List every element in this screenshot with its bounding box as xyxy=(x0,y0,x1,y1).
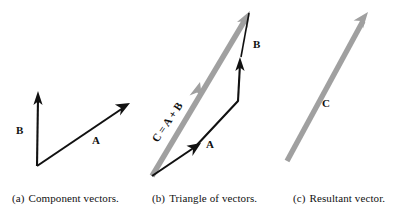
caption-tag-b: (b) xyxy=(152,192,165,204)
caption-panel-a: (a)Component vectors. xyxy=(12,192,119,204)
caption-panel-b: (b)Triangle of vectors. xyxy=(152,192,257,204)
caption-text-c: Resultant vector. xyxy=(310,192,386,204)
vector-figure: B A C = A + B A B C (a)Component vectors… xyxy=(0,0,403,212)
caption-tag-c: (c) xyxy=(293,192,306,204)
vector-diagram xyxy=(0,0,403,212)
vector-b-C xyxy=(152,11,250,176)
vector-label-a-A: A xyxy=(92,134,100,146)
vector-label-b-B: B xyxy=(253,38,260,50)
vector-a-A xyxy=(37,103,130,166)
vector-label-a-B: B xyxy=(16,124,23,136)
panel-c-graphics xyxy=(287,12,368,161)
caption-tag-a: (a) xyxy=(12,192,25,204)
caption-panel-c: (c)Resultant vector. xyxy=(293,192,385,204)
panel-a-graphics xyxy=(33,91,130,166)
vector-label-b-A: A xyxy=(206,138,214,150)
vector-c-C xyxy=(287,12,368,161)
caption-text-a: Component vectors. xyxy=(29,192,119,204)
panel-b-graphics xyxy=(152,11,250,176)
caption-row: (a)Component vectors. (b)Triangle of vec… xyxy=(0,192,403,212)
caption-text-b: Triangle of vectors. xyxy=(169,192,257,204)
vector-a-B xyxy=(33,91,42,166)
vector-label-c-C: C xyxy=(322,97,330,109)
